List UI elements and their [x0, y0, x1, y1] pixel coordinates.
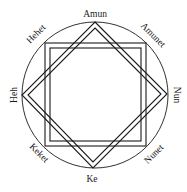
- ogdoad-diagram: Amun Amunet Nun Nunet Ke Keket Heh Hehet: [0, 0, 187, 192]
- label-heh: Heh: [9, 87, 19, 103]
- label-amun: Amun: [83, 9, 107, 19]
- label-amunet: Amunet: [139, 21, 168, 50]
- label-keket: Keket: [28, 141, 51, 164]
- label-ke: Ke: [86, 174, 97, 184]
- label-nun: Nun: [172, 87, 182, 104]
- label-hehet: Hehet: [24, 22, 47, 45]
